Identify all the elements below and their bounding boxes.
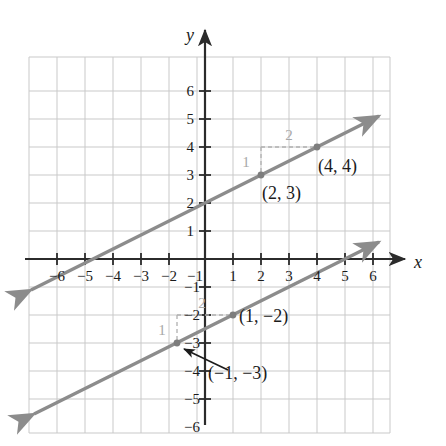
x-tick-label: 5 [341,268,349,284]
x-tick-label: −5 [77,268,93,284]
x-tick-label: 4 [313,268,321,284]
x-tick-label: 3 [285,268,293,284]
y-tick-label: −3 [184,335,200,351]
tick-marks [57,91,373,399]
lower-run-label: 2 [198,295,206,311]
y-tick-label: 4 [187,139,195,155]
y-tick-label: −4 [184,363,200,379]
x-tick-label: 2 [257,268,265,284]
upper-run-label: 2 [285,127,293,143]
point-neg1-neg3 [174,340,181,347]
x-tick-labels: −6 −5 −4 −3 −2 −1 1 2 3 4 5 6 [49,268,377,284]
x-tick-label: −4 [105,268,121,284]
upper-rise-label: 1 [242,154,250,170]
point-4-4 [314,144,321,151]
point-label-4-4: (4, 4) [318,156,357,177]
y-tick-label: −5 [184,391,200,407]
point-1-neg2 [230,312,237,319]
x-tick-label: 6 [369,268,377,284]
point-2-3 [258,172,265,179]
y-tick-label: −6 [184,419,200,435]
x-tick-label: −2 [161,268,177,284]
x-tick-label: 1 [229,268,237,284]
coordinate-plane: −6 −5 −4 −3 −2 −1 1 2 3 4 5 6 6 5 4 3 2 … [0,0,446,446]
point-label-neg1-neg3: (−1, −3) [208,363,267,384]
y-tick-label: 2 [187,195,195,211]
y-axis-label: y [184,25,194,45]
y-tick-label: −1 [184,279,200,295]
x-tick-label: −6 [49,268,65,284]
point-label-1-neg2: (1, −2) [239,306,288,327]
y-tick-label: 5 [187,111,195,127]
y-tick-label: 3 [187,167,195,183]
y-tick-label: 6 [187,83,195,99]
y-tick-label: 1 [187,223,195,239]
graph-figure: −6 −5 −4 −3 −2 −1 1 2 3 4 5 6 6 5 4 3 2 … [0,0,446,446]
x-tick-label: −3 [133,268,149,284]
lower-rise-label: 1 [158,322,166,338]
point-label-2-3: (2, 3) [262,183,301,204]
x-axis-label: x [413,252,422,272]
